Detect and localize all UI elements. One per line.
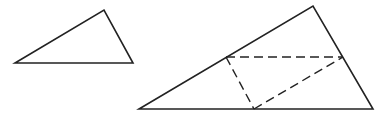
dashed-line-2	[254, 57, 343, 109]
dashed-subdivision	[226, 57, 343, 109]
dashed-line-1	[226, 57, 254, 109]
triangle-diagram	[0, 0, 385, 121]
small-triangle	[15, 10, 133, 63]
